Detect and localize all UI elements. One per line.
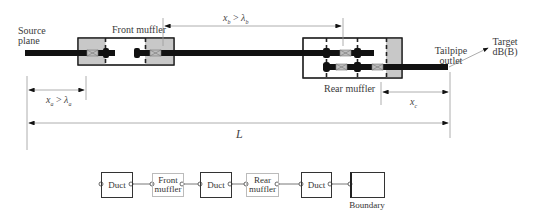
block-duct-1: Duct <box>101 172 133 198</box>
block-front-muffler: Front muffler <box>152 173 184 197</box>
front-muffler-label: Front muffler <box>112 25 166 35</box>
dimension-L-label: L <box>236 127 243 142</box>
target-label: Target dB(B) <box>484 37 526 57</box>
source-plane-label: Source plane <box>18 26 58 46</box>
dimension-xb-label: xb > λb <box>223 12 248 25</box>
dimension-xc-label: xc <box>410 96 417 109</box>
exhaust-system-schematic <box>0 0 558 217</box>
boundary-label: Boundary <box>342 201 392 210</box>
rear-muffler-label: Rear muffler <box>324 84 375 94</box>
rear-muffler-shape <box>303 38 402 78</box>
block-boundary <box>350 172 385 198</box>
dimension-xa-label: xa > λa <box>46 94 71 107</box>
block-duct-3: Duct <box>301 172 332 198</box>
block-rear-muffler: Rear muffler <box>246 173 279 197</box>
block-duct-2: Duct <box>200 172 232 198</box>
tailpipe-outlet-label: Tailpipe outlet <box>433 46 469 66</box>
